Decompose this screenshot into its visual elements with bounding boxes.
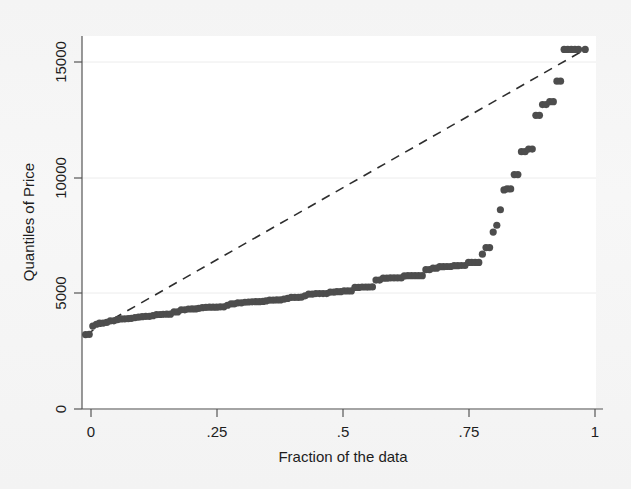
data-point <box>419 272 426 279</box>
plot-panel-background <box>82 36 596 408</box>
x-tick-label-1: 1 <box>591 423 599 440</box>
x-tick-label-075: .75 <box>459 423 480 440</box>
y-tick-label-0: 0 <box>52 405 69 413</box>
quantile-plot-graph: 15000 10000 5000 0 Quantiles of Price 0 … <box>0 0 631 489</box>
data-point <box>514 171 521 178</box>
data-point <box>536 112 543 119</box>
data-point <box>479 251 486 258</box>
data-point <box>529 145 536 152</box>
x-tick-label-05: .5 <box>337 423 350 440</box>
x-tick-label-025: .25 <box>207 423 228 440</box>
data-point <box>86 331 93 338</box>
data-point <box>557 78 564 85</box>
data-point <box>582 46 589 53</box>
figure-canvas: 15000 10000 5000 0 Quantiles of Price 0 … <box>0 0 631 489</box>
y-tick-label-5000: 5000 <box>52 276 69 309</box>
data-point <box>575 46 582 53</box>
data-point <box>369 283 376 290</box>
y-tick-label-10000: 10000 <box>52 157 69 199</box>
x-tick-label-0: 0 <box>87 423 95 440</box>
y-tick-label-15000: 15000 <box>52 41 69 83</box>
data-point <box>550 98 557 105</box>
y-axis-title: Quantiles of Price <box>20 163 37 281</box>
data-point <box>490 228 497 235</box>
data-point <box>497 206 504 213</box>
x-axis-ticks <box>91 409 595 417</box>
plot-svg: 15000 10000 5000 0 Quantiles of Price 0 … <box>0 0 631 489</box>
data-point <box>475 259 482 266</box>
x-axis-title: Fraction of the data <box>278 448 408 465</box>
data-point <box>507 185 514 192</box>
y-axis-ticks <box>74 62 82 409</box>
data-point <box>493 222 500 229</box>
data-point <box>486 244 493 251</box>
